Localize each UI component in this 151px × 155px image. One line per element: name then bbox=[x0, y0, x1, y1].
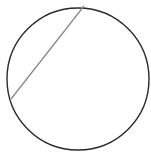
geometry-diagram bbox=[0, 0, 151, 155]
chord-line bbox=[11, 6, 84, 99]
circle bbox=[7, 8, 149, 150]
